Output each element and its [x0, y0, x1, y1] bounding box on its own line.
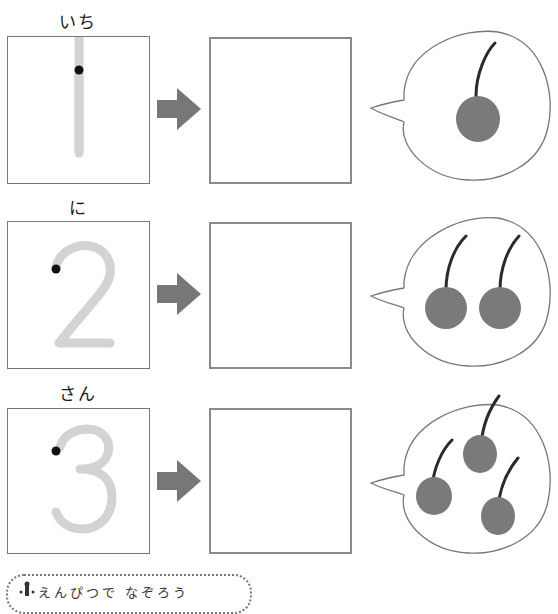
row-3-trace-box: [7, 408, 150, 554]
number-1-trace-icon: [8, 37, 151, 185]
number-2-trace-icon: [8, 222, 151, 370]
row-1-speech-bubble: [368, 22, 554, 192]
row-2-label: に: [7, 194, 149, 219]
row-3-label: さん: [7, 380, 149, 405]
row-2-speech-bubble: [368, 212, 554, 382]
number-3-trace-icon: [8, 409, 151, 555]
row-1-trace-box: [7, 36, 150, 184]
row-2-answer-box[interactable]: [209, 222, 352, 369]
row-2-trace-box: [7, 221, 150, 369]
row-2-arrow-icon: [157, 271, 203, 317]
instruction-text: えんぴつで なぞろう: [38, 582, 189, 601]
row-1-label: いち: [7, 8, 149, 33]
row-1-arrow-icon: [157, 86, 203, 132]
row-3-arrow-icon: [157, 458, 203, 504]
row-3-speech-bubble: [368, 392, 554, 562]
pencil-icon: [16, 580, 38, 596]
row-3-answer-box[interactable]: [209, 408, 352, 554]
row-1-answer-box[interactable]: [209, 37, 352, 184]
instruction-banner: えんぴつで なぞろう: [6, 574, 252, 614]
